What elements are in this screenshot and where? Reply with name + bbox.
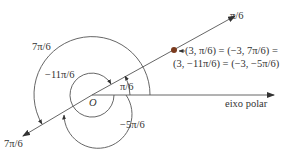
polar-point: [171, 47, 177, 53]
ray-label-bottom: 7π/6: [4, 138, 23, 149]
angle-label-pi-over-6: π/6: [120, 81, 133, 92]
ray-7pi-over-6: [23, 95, 92, 136]
origin-label: O: [89, 97, 97, 108]
angle-label-neg-11pi-over-6: −11π/6: [45, 69, 75, 80]
point-label-line1: (3, π/6) = (−3, 7π/6) =: [185, 45, 278, 57]
polar-diagram: π/6 7π/6 7π/6 −11π/6 π/6 −5π/6 O eixo po…: [0, 0, 288, 150]
angle-label-7pi-over-6: 7π/6: [32, 41, 51, 52]
angle-label-neg-5pi-over-6: −5π/6: [120, 119, 145, 130]
ray-label-top: π/6: [230, 10, 243, 21]
point-label-line2: (3, −11π/6) = (−3, −5π/6): [173, 58, 280, 70]
polar-axis-label: eixo polar: [225, 98, 268, 109]
